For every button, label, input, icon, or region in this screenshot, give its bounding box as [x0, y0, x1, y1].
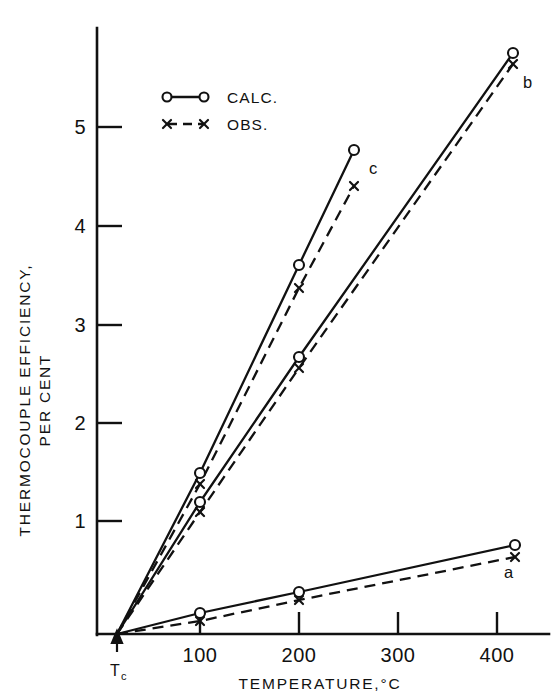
y-axis-title-line2: PER CENT — [36, 354, 53, 447]
legend-item-obs: OBS. — [163, 116, 268, 133]
tc-label: T — [110, 662, 120, 679]
legend-circle-icon-right — [200, 93, 209, 102]
y-ticklabel-5: 5 — [74, 116, 86, 138]
legend-label-obs: OBS. — [227, 116, 268, 133]
y-ticklabel-group: 5 4 3 2 1 — [74, 116, 86, 532]
curve-label-b: b — [523, 73, 532, 91]
curve-a-calc-point-420 — [510, 540, 520, 550]
legend-label-calc: CALC. — [227, 89, 278, 106]
chart-svg: 5 4 3 2 1 100 200 300 400 T c TEMPERATUR… — [0, 0, 559, 696]
tc-annotation: T c — [110, 631, 127, 682]
legend: CALC. OBS. — [163, 89, 279, 133]
x-ticklabel-300: 300 — [381, 644, 416, 666]
y-axis-title-line1: THERMOCOUPLE EFFICIENCY, — [16, 264, 33, 537]
curve-b-group: b — [117, 48, 532, 634]
y-ticklabel-2: 2 — [74, 412, 86, 434]
x-ticklabel-100: 100 — [183, 644, 218, 666]
x-axis-title: TEMPERATURE,°C — [239, 675, 402, 692]
y-ticklabel-1: 1 — [74, 510, 86, 532]
x-ticklabel-400: 400 — [480, 644, 515, 666]
y-ticklabel-3: 3 — [74, 314, 86, 336]
curve-b-obs-line — [117, 64, 513, 634]
curve-c-calc-point-255 — [349, 145, 359, 155]
curve-label-a: a — [504, 563, 514, 581]
curve-a-calc-line — [117, 545, 515, 634]
curve-c-obs-point-255 — [350, 182, 358, 190]
curve-b-calc-point-420 — [508, 48, 518, 58]
curve-c-group: c — [117, 145, 377, 634]
curve-label-c: c — [369, 159, 377, 177]
curve-b-obs-point-420 — [509, 60, 517, 68]
figure-panel: 5 4 3 2 1 100 200 300 400 T c TEMPERATUR… — [0, 0, 559, 696]
curve-c-calc-point-100 — [195, 468, 205, 478]
x-ticklabel-group: 100 200 300 400 — [183, 644, 515, 666]
curve-c-obs-point-200 — [295, 284, 303, 292]
curve-c-obs-point-100 — [196, 480, 204, 488]
x-tick-group — [200, 612, 497, 634]
y-ticklabel-4: 4 — [74, 215, 86, 237]
curve-c-calc-line — [117, 150, 354, 634]
curve-b-calc-point-100 — [195, 497, 205, 507]
curve-b-calc-point-200 — [294, 352, 304, 362]
curve-b-obs-point-100 — [196, 508, 204, 516]
curve-a-obs-line — [117, 557, 515, 634]
y-tick-group — [97, 127, 122, 521]
legend-circle-icon-left — [163, 93, 172, 102]
legend-item-calc: CALC. — [163, 89, 279, 106]
axis-group — [97, 28, 549, 635]
curve-a-group: a — [117, 540, 520, 634]
x-ticklabel-200: 200 — [282, 644, 317, 666]
curve-b-obs-point-200 — [295, 364, 303, 372]
tc-label-subscript: c — [121, 670, 127, 682]
curve-c-calc-point-200 — [294, 260, 304, 270]
